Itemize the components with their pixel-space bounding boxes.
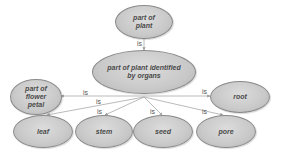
node-organs: part of plant identifiedby organs bbox=[92, 50, 196, 94]
edge-label: is bbox=[150, 108, 155, 115]
node-part-of-plant: part ofplant bbox=[115, 5, 173, 39]
edge-label: is bbox=[96, 98, 101, 105]
node-pore: pore bbox=[196, 115, 256, 148]
edge-label: is bbox=[202, 108, 207, 115]
edge-label: is bbox=[202, 88, 207, 95]
edge-label: is bbox=[97, 108, 102, 115]
node-seed: seed bbox=[133, 115, 193, 148]
node-flower-petal: part offlowerpetal bbox=[10, 79, 62, 115]
edge-label: is bbox=[83, 89, 88, 96]
edge-label: is bbox=[137, 40, 142, 47]
node-stem: stem bbox=[75, 115, 133, 148]
node-root: root bbox=[210, 81, 270, 113]
node-leaf: leaf bbox=[13, 115, 73, 148]
edge-organs-stem bbox=[105, 97, 144, 115]
